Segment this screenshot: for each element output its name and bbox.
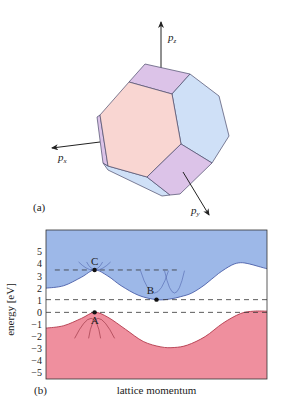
y-tick-label: 5 — [37, 246, 42, 257]
panel-a: pz px py (a) — [33, 22, 229, 218]
px-label: px — [57, 151, 68, 165]
point-c — [92, 268, 96, 272]
figure: pz px py (a) ABC 543210−1−2−3−4−5 energy… — [0, 0, 281, 412]
point-b — [154, 297, 158, 301]
point-label-a: A — [91, 314, 99, 326]
point-label-c: C — [91, 255, 98, 267]
point-label-b: B — [147, 284, 154, 296]
y-tick-label: 4 — [37, 258, 42, 269]
y-tick-label: 0 — [37, 307, 42, 318]
y-tick-label: −4 — [31, 355, 42, 366]
x-axis-label: lattice momentum — [117, 384, 197, 396]
y-axis-label: energy [eV] — [4, 283, 16, 336]
y-tick-label: −5 — [31, 367, 42, 378]
y-tick-label: 2 — [37, 283, 42, 294]
y-tick-label: 3 — [37, 271, 42, 282]
pz-label: pz — [167, 31, 177, 45]
y-tick-label: −1 — [31, 319, 42, 330]
px-axis-arrow — [52, 142, 100, 148]
conduction-band-area — [46, 230, 267, 300]
y-tick-label: 1 — [37, 295, 42, 306]
panel-b-label: (b) — [34, 384, 47, 397]
y-tick-label: −2 — [31, 331, 42, 342]
y-tick-label: −3 — [31, 343, 42, 354]
valence-band-area — [46, 311, 267, 379]
py-label: py — [190, 204, 201, 218]
panel-a-label: (a) — [33, 201, 46, 214]
band-structure-chart: ABC 543210−1−2−3−4−5 energy [eV] lattice… — [4, 230, 267, 397]
